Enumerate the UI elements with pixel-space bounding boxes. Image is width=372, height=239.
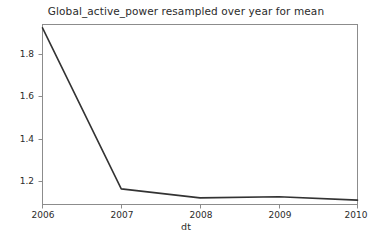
x-tick-label-4: 2009 [269,210,292,220]
x-tick-label-5: 2010 [345,210,368,220]
y-tick-marks [39,55,43,182]
y-tick-label-2: 1.6 [0,91,34,101]
plot-area [0,0,372,239]
y-tick-label-4: 1.2 [0,176,34,186]
x-tick-label-2: 2007 [111,210,134,220]
x-tick-marks [43,205,358,209]
y-tick-label-1: 1.8 [0,49,34,59]
chart-figure: Global_active_power resampled over year … [0,0,372,239]
x-tick-label-1: 2006 [32,210,55,220]
x-axis-label: dt [0,221,372,232]
y-tick-label-3: 1.4 [0,134,34,144]
axes-frame [43,25,358,205]
x-tick-label-3: 2008 [190,210,213,220]
